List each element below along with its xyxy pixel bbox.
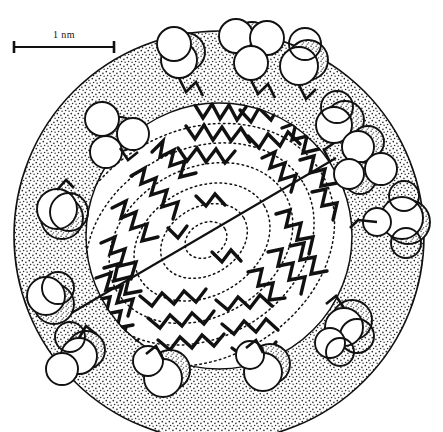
head-group-sphere [334,159,364,189]
head-group-sphere [27,277,65,315]
head-group-sphere [280,47,318,85]
figure-root: 1 nm [0,0,443,432]
head-group-sphere [90,136,122,168]
head-group-sphere [234,46,268,80]
head-group-sphere [365,153,397,185]
head-group-sphere [37,189,77,229]
head-group-sphere [46,353,78,385]
head-group-sphere [157,27,191,61]
micelle-diagram: 1 nm [0,0,443,432]
head-group-sphere [117,118,149,150]
head-group-sphere [85,102,119,136]
